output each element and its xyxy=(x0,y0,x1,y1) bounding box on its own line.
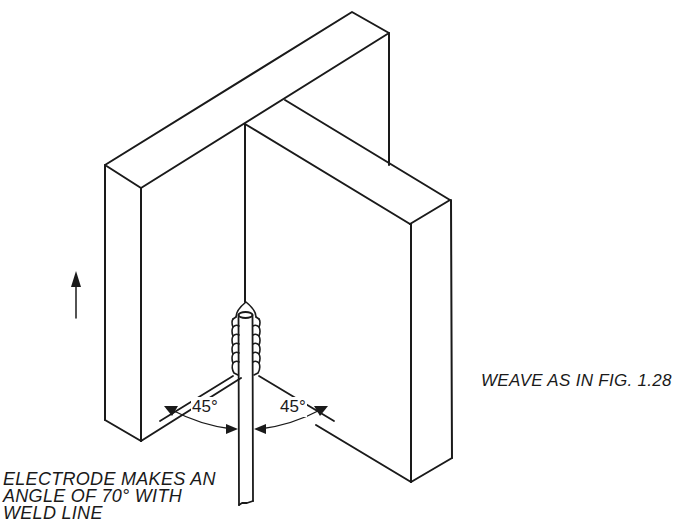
arc-arrowhead-right-inner xyxy=(254,424,266,434)
weld-bead xyxy=(232,302,260,375)
right-angle-label: 45° xyxy=(279,397,307,417)
left-angle-label: 45° xyxy=(191,397,219,417)
arc-arrowhead-left-inner xyxy=(226,424,238,434)
weave-note: WEAVE AS IN FIG. 1.28 xyxy=(481,372,672,389)
electrode-rod xyxy=(239,312,254,505)
t-joint-drawing xyxy=(0,0,688,528)
flange-plate xyxy=(105,12,389,441)
angle-lines xyxy=(160,376,334,421)
up-arrow-icon xyxy=(71,271,81,287)
electrode-note-line3: WELD LINE xyxy=(3,505,103,522)
web-plate xyxy=(245,100,452,482)
